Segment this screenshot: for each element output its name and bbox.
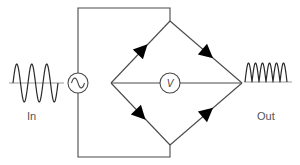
voltmeter-branch: V <box>111 73 242 93</box>
input-waveform <box>9 64 64 102</box>
diode-lower-right-icon <box>198 102 218 122</box>
output-rectified-wave <box>245 63 287 82</box>
ac-source <box>68 73 88 93</box>
bridge-rectifier-diagram: In <box>0 0 300 165</box>
input-label: In <box>27 110 36 122</box>
voltmeter-label: V <box>167 78 175 89</box>
top-wire <box>78 8 170 73</box>
diode-upper-right-icon <box>198 44 218 64</box>
output-waveform <box>244 63 292 82</box>
bottom-wire <box>78 93 170 157</box>
sine-symbol-icon <box>72 78 85 88</box>
output-label: Out <box>257 110 275 122</box>
